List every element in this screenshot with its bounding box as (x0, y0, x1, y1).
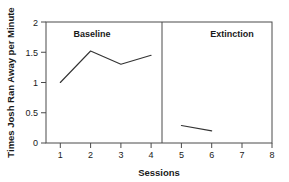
chart-background (0, 0, 289, 182)
x-tick-label-2: 2 (88, 150, 93, 160)
y-tick-label-0: 0 (33, 138, 38, 148)
x-axis-title: Sessions (138, 167, 180, 178)
x-tick-label-3: 3 (118, 150, 123, 160)
phase-label-baseline: Baseline (73, 29, 110, 39)
y-tick-label-1_5: 1.5 (25, 48, 38, 58)
x-tick-label-7: 7 (239, 150, 244, 160)
phase-label-extinction: Extinction (210, 29, 254, 39)
single-subject-line-chart: 0 0.5 1 1.5 2 1 2 3 4 5 6 7 8 (0, 0, 289, 182)
y-tick-label-2: 2 (33, 18, 38, 28)
x-tick-label-1: 1 (58, 150, 63, 160)
x-tick-label-8: 8 (269, 150, 274, 160)
y-axis-title: Times Josh Ran Away per Minute (5, 7, 16, 157)
x-tick-label-6: 6 (209, 150, 214, 160)
chart-container: 0 0.5 1 1.5 2 1 2 3 4 5 6 7 8 (0, 0, 289, 182)
x-tick-label-5: 5 (179, 150, 184, 160)
y-tick-label-1: 1 (33, 78, 38, 88)
y-tick-label-0_5: 0.5 (25, 108, 38, 118)
x-tick-label-4: 4 (149, 150, 154, 160)
